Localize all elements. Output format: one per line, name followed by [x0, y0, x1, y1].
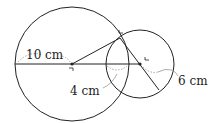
tick-marker-large-center	[69, 68, 73, 71]
leader-6cm	[158, 69, 178, 76]
tick-marker-small-center	[145, 57, 149, 60]
dim-arc-4cm	[107, 66, 127, 70]
intersecting-circles-diagram: 10 cm 4 cm 6 cm	[0, 0, 219, 123]
large-center-point	[70, 62, 73, 65]
radius-to-intersection	[72, 38, 120, 64]
label-10cm: 10 cm	[26, 48, 64, 62]
label-6cm: 6 cm	[178, 74, 208, 88]
label-4cm: 4 cm	[70, 84, 100, 98]
small-center-point	[138, 62, 141, 65]
dim-arc-10cm-right	[62, 56, 70, 62]
